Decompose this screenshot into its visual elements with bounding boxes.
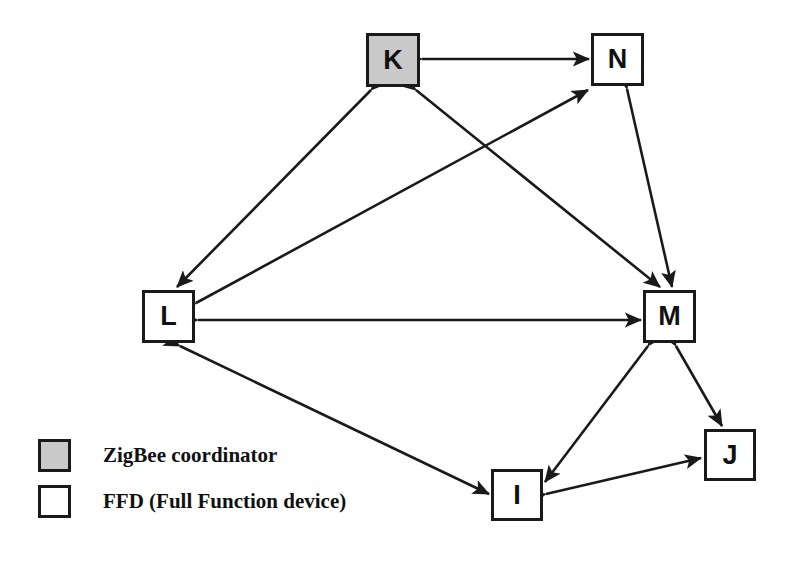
network-topology-diagram: K N L M J I ZigBee coordinator FFD (Full… [0, 0, 791, 569]
edge-L-N [196, 90, 588, 303]
legend-item-coordinator: ZigBee coordinator [38, 432, 438, 478]
node-K[interactable]: K [366, 33, 420, 87]
edge-M-I [545, 346, 648, 482]
legend: ZigBee coordinator FFD (Full Function de… [38, 432, 438, 524]
node-label-I: I [513, 482, 521, 509]
edge-N-M [627, 89, 672, 287]
legend-swatch-ffd [38, 485, 71, 518]
node-I[interactable]: I [491, 469, 543, 521]
edge-K-L [177, 90, 371, 287]
node-label-L: L [160, 303, 177, 330]
legend-label-coordinator: ZigBee coordinator [103, 443, 277, 468]
legend-item-ffd: FFD (Full Function device) [38, 478, 438, 524]
legend-label-ffd: FFD (Full Function device) [103, 489, 346, 514]
legend-swatch-coordinator [38, 439, 71, 472]
node-label-N: N [608, 46, 628, 73]
node-label-M: M [658, 303, 681, 330]
node-N[interactable]: N [591, 33, 644, 86]
node-L[interactable]: L [142, 290, 195, 343]
node-label-J: J [722, 442, 737, 469]
node-M[interactable]: M [643, 290, 696, 343]
edge-I-J [546, 458, 701, 494]
edge-K-M [416, 90, 660, 287]
node-label-K: K [383, 47, 403, 74]
node-J[interactable]: J [704, 429, 756, 481]
edge-M-J [676, 346, 722, 426]
